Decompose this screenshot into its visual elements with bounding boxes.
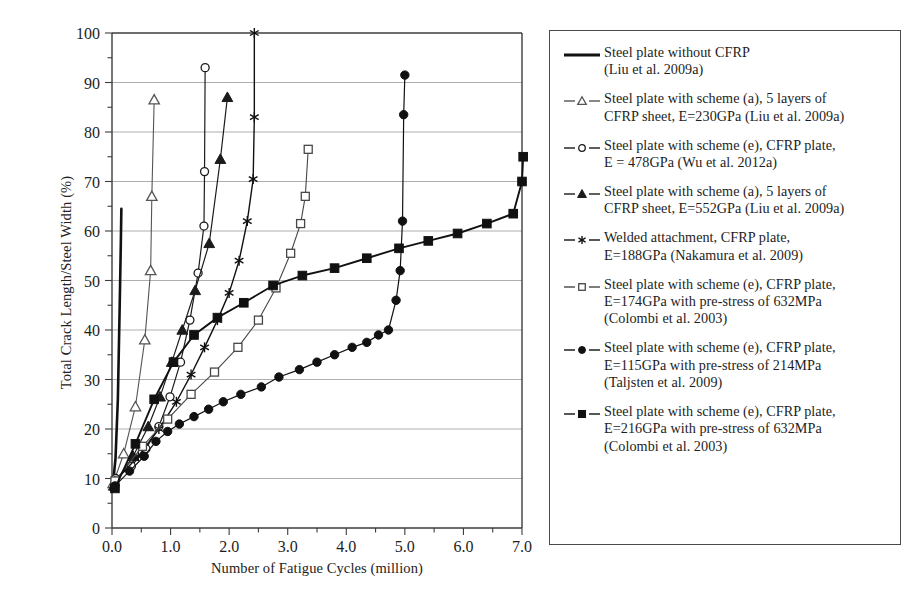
series-0 (114, 209, 122, 476)
y-tick-label: 20 (84, 421, 100, 438)
legend-entry: Steel plate with scheme (a), 5 layers of… (560, 90, 892, 125)
data-point-filled-triangle (215, 154, 226, 164)
y-tick-label: 0 (92, 520, 100, 537)
legend-marker-filled-circle-icon (560, 341, 604, 359)
series-line (114, 209, 122, 476)
legend-label: Steel plate with scheme (a), 5 layers of… (604, 183, 844, 218)
data-point-filled-square (509, 209, 518, 218)
legend-marker-open-circle-icon (560, 139, 604, 157)
data-point-filled-circle (237, 390, 245, 398)
series-7 (111, 152, 528, 492)
data-point-open-circle (201, 168, 209, 176)
data-point-filled-triangle (177, 325, 188, 335)
legend-label: Steel plate without CFRP (Liu et al. 200… (604, 44, 750, 79)
data-point-filled-square (111, 484, 120, 493)
data-point-filled-circle (384, 326, 392, 334)
data-point-open-circle (186, 316, 194, 324)
data-point-asterisk (235, 256, 244, 266)
y-tick-label: 70 (84, 174, 100, 191)
legend-marker-filled-square-icon (560, 405, 604, 423)
data-point-open-square (579, 283, 586, 290)
data-point-filled-circle (140, 452, 148, 460)
data-point-filled-square (453, 229, 462, 238)
data-point-filled-circle (348, 343, 356, 351)
legend-entry: Steel plate with scheme (a), 5 layers of… (560, 183, 892, 218)
data-point-open-triangle (140, 335, 150, 344)
series-line (114, 97, 228, 486)
series-line (115, 33, 254, 481)
y-tick-label: 40 (84, 322, 100, 339)
data-point-filled-circle (175, 420, 183, 428)
data-point-filled-square (269, 281, 278, 290)
data-point-open-square (287, 249, 295, 257)
data-point-open-circle (200, 222, 208, 230)
data-point-filled-square (483, 219, 492, 228)
legend-marker-filled-triangle-icon (560, 185, 604, 203)
data-point-filled-triangle (222, 92, 233, 102)
data-point-asterisk (578, 236, 585, 244)
data-point-filled-square (519, 152, 528, 161)
legend-entry: Steel plate with scheme (e), CFRP plate,… (560, 276, 892, 328)
y-tick-label: 10 (84, 471, 100, 488)
y-tick-label: 100 (76, 25, 100, 42)
series-5 (111, 145, 312, 485)
legend-label: Steel plate with scheme (e), CFRP plate,… (604, 137, 836, 172)
data-point-filled-triangle (578, 190, 587, 198)
x-axis-title: Number of Fatigue Cycles (million) (112, 560, 522, 577)
data-point-filled-circle (125, 467, 133, 475)
data-point-asterisk (243, 216, 252, 226)
x-tick-label: 2.0 (219, 538, 239, 555)
data-point-filled-triangle (190, 285, 201, 295)
data-point-open-square (304, 145, 312, 153)
legend-entry: Steel plate with scheme (e), CFRP plate,… (560, 137, 892, 172)
data-point-open-triangle (149, 95, 159, 104)
legend-marker-open-triangle-icon (560, 92, 604, 110)
y-tick-label: 50 (84, 273, 100, 290)
data-point-filled-square (190, 331, 199, 340)
x-tick-label: 6.0 (453, 538, 473, 555)
x-tick-label: 0.0 (102, 538, 122, 555)
y-tick-label: 60 (84, 223, 100, 240)
data-point-filled-square (578, 410, 585, 417)
data-point-filled-square (131, 440, 140, 449)
data-point-open-triangle (578, 97, 587, 105)
fatigue-crack-growth-chart: 01020304050607080901000.01.02.03.04.05.0… (0, 0, 545, 602)
x-tick-label: 1.0 (161, 538, 181, 555)
data-point-filled-square (169, 358, 178, 367)
series-line (115, 157, 523, 489)
data-point-filled-circle (392, 296, 400, 304)
legend-label: Steel plate with scheme (e), CFRP plate,… (604, 339, 836, 391)
chart-page: 01020304050607080901000.01.02.03.04.05.0… (0, 0, 915, 602)
data-point-filled-triangle (204, 238, 215, 248)
y-axis-title: Total Crack Length/Steel Width (%) (58, 73, 75, 493)
data-point-asterisk (249, 174, 258, 184)
data-point-open-triangle (119, 449, 129, 458)
data-point-filled-circle (313, 358, 321, 366)
data-point-filled-square (298, 271, 307, 280)
data-point-filled-square (362, 254, 371, 263)
data-point-filled-circle (330, 351, 338, 359)
data-point-open-square (254, 316, 262, 324)
data-point-open-square (164, 415, 172, 423)
data-point-open-square (187, 390, 195, 398)
data-point-open-square (211, 368, 219, 376)
data-point-filled-circle (399, 110, 407, 118)
legend-label: Steel plate with scheme (e), CFRP plate,… (604, 276, 836, 328)
legend-marker-none-icon (560, 46, 604, 64)
data-point-filled-circle (163, 427, 171, 435)
plot-canvas: 01020304050607080901000.01.02.03.04.05.0… (0, 0, 545, 602)
legend-marker-open-square-icon (560, 278, 604, 296)
y-tick-label: 80 (84, 124, 100, 141)
legend-label: Welded attachment, CFRP plate, E=188GPa … (604, 229, 803, 264)
data-point-filled-circle (295, 365, 303, 373)
legend-label: Steel plate with scheme (e), CFRP plate,… (604, 403, 836, 455)
data-point-open-square (301, 192, 309, 200)
data-point-filled-circle (275, 373, 283, 381)
data-point-filled-square (330, 264, 339, 273)
legend-marker-asterisk-icon (560, 231, 604, 249)
data-point-filled-circle (257, 383, 265, 391)
data-point-asterisk (250, 112, 259, 122)
data-point-filled-square (150, 395, 159, 404)
data-point-open-circle (201, 64, 209, 72)
data-point-open-triangle (130, 402, 140, 411)
